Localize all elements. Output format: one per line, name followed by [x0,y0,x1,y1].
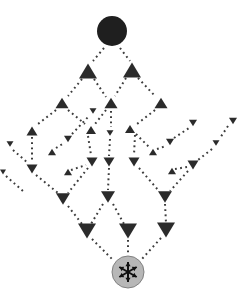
triangle-node-D13-down [104,157,115,166]
dotted-edge-D3-D11 [13,150,28,163]
dotted-edge-U8-U10 [136,134,149,147]
triangle-node-D17-down [101,191,115,202]
dotted-edge-D14-D18 [139,168,159,191]
triangle-node-D3-down [7,141,14,147]
dotted-edge-U1-U3 [68,79,82,96]
triangle-node-U1-up [79,64,97,79]
dotted-edge-U2-U5 [138,78,155,96]
dotted-edge-U7-D12 [88,136,91,155]
triangle-node-D15-down [188,160,199,169]
triangle-node-D6-down [189,120,197,127]
dotted-edge-U5-U8 [137,110,155,124]
dotted-edge-U1-U4 [94,79,106,97]
triangle-node-D10-down [0,170,6,175]
dotted-edge-D12-D16 [68,168,88,193]
dotted-edge-source-U1 [93,48,104,61]
triangle-node-D16-down [56,193,70,204]
source-circle-node [97,16,127,46]
diamond-lattice-figure [0,0,241,291]
triangle-node-U5-up [155,98,168,109]
dotted-edge-D11-D16 [36,175,58,193]
dotted-edge-source-U2 [120,48,130,61]
dotted-edge-D19-sink [92,239,114,261]
dotted-edge-D21-sink [141,238,161,260]
triangle-node-D20-down [119,224,137,239]
dotted-edges-layer [6,48,228,261]
triangle-node-U10-up [149,149,157,156]
lattice-diagram [0,0,241,291]
triangle-node-D12-down [87,157,98,166]
dotted-edge-U11-D12 [71,165,86,170]
triangle-node-U2-up [123,63,141,78]
triangle-node-D14-down [129,157,140,166]
triangle-node-U9-up [48,149,56,156]
dotted-edge-U4-U7 [95,110,106,124]
dotted-edge-D8-D15 [198,149,212,160]
triangle-node-D21-down [157,223,175,238]
triangle-node-U7-up [86,126,96,134]
triangle-node-D11-down [27,164,38,173]
terminal-nodes-layer [97,16,144,288]
triangle-node-U8-up [125,125,135,133]
dotted-edge-U9-D4 [56,143,64,148]
triangle-node-D5-down [166,139,174,146]
triangle-node-D7-down [229,118,237,125]
triangle-node-U4-up [105,98,118,109]
dotted-edge-U10-D5 [157,146,166,149]
triangle-node-D8-down [213,140,220,146]
dotted-edge-D7-D8 [220,126,228,138]
dotted-edge-D16-D19 [68,206,82,224]
dotted-edge-U12-D15 [175,167,187,169]
dotted-edge-U8-D14 [134,135,135,155]
dotted-edge-D17-D20 [113,204,124,224]
triangle-node-U6-up [27,126,38,135]
dotted-edge-D18-D21 [165,204,166,223]
dotted-edge-D2-D13 [109,139,110,156]
dotted-edge-U2-U4 [115,78,126,96]
triangle-node-D19-down [78,224,96,239]
triangle-node-D18-down [158,191,172,202]
triangle-nodes-layer [0,63,237,239]
dotted-edge-D13-D17 [108,168,109,190]
triangle-node-U3-up [56,98,69,109]
dotted-edge-D10-D16 [6,176,24,192]
dotted-edge-D17-D19 [91,204,103,224]
triangle-node-U12-up [168,168,176,175]
dotted-edge-U3-U6 [38,110,56,124]
dotted-edge-D5-D6 [174,128,189,138]
triangle-node-D4-down [64,136,72,143]
triangle-node-D2-down [107,130,114,136]
triangle-node-U11-up [64,169,72,176]
dotted-edge-D4-D1 [72,116,89,134]
triangle-node-D1-down [90,108,97,114]
